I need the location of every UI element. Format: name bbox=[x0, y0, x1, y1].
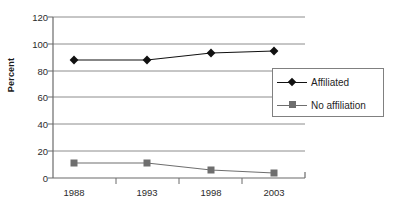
data-point-no-affiliation-1988 bbox=[71, 160, 78, 167]
gridlines bbox=[53, 17, 305, 151]
x-tick-label-1988: 1988 bbox=[54, 188, 94, 198]
data-point-no-affiliation-1993 bbox=[144, 160, 151, 167]
legend-item-no-affiliation[interactable]: No affiliation bbox=[273, 93, 383, 117]
data-point-affiliated-1993 bbox=[143, 56, 152, 65]
legend: Affiliated No affiliation bbox=[272, 68, 384, 117]
x-axis-ticks bbox=[116, 178, 242, 184]
data-point-affiliated-1998 bbox=[207, 49, 216, 58]
square-marker-icon bbox=[289, 101, 296, 108]
data-point-affiliated-2003 bbox=[270, 47, 279, 56]
x-tick-label-1993: 1993 bbox=[127, 188, 167, 198]
legend-swatch-no-affiliation bbox=[277, 98, 307, 112]
data-point-no-affiliation-1998 bbox=[208, 167, 215, 174]
series-no-affiliation bbox=[71, 160, 278, 177]
data-point-affiliated-1988 bbox=[70, 56, 79, 65]
legend-item-affiliated[interactable]: Affiliated bbox=[273, 70, 383, 94]
x-tick-label-2003: 2003 bbox=[254, 188, 294, 198]
chart-container: Percent 120 100 80 60 40 20 0 bbox=[0, 0, 399, 209]
legend-label-no-affiliation: No affiliation bbox=[311, 100, 366, 111]
data-point-no-affiliation-2003 bbox=[271, 170, 278, 177]
diamond-marker-icon bbox=[288, 78, 296, 86]
y-axis-ticks bbox=[48, 17, 53, 178]
x-tick-label-1998: 1998 bbox=[191, 188, 231, 198]
legend-label-affiliated: Affiliated bbox=[311, 77, 349, 88]
series-affiliated bbox=[70, 47, 279, 65]
legend-swatch-affiliated bbox=[277, 75, 307, 89]
